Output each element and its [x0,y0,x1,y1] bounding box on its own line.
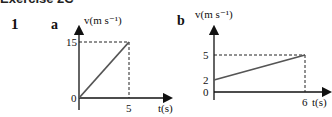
ytick-2: 2 [203,74,209,86]
velocity-time-graphs: v(m s⁻¹) 15 0 5 t(s) v(m s⁻¹) 5 2 0 6 t(… [0,0,332,117]
ytick-15: 15 [66,36,78,48]
y-axis-label-b: v(m s⁻¹) [195,8,233,21]
velocity-line-a [79,42,129,98]
x-axis-label-a: t(s) [158,102,173,115]
x-axis-label-b: t(s) [312,96,327,109]
y-axis-label-a: v(m s⁻¹) [84,14,122,27]
ytick-5: 5 [203,49,209,61]
xtick-6: 6 [302,96,308,108]
velocity-line-b [214,55,305,80]
graph-b: v(m s⁻¹) 5 2 0 6 t(s) [195,8,327,109]
ytick-0-b: 0 [203,86,209,98]
ytick-0-a: 0 [71,92,77,104]
xtick-5: 5 [126,102,132,114]
graph-a: v(m s⁻¹) 15 0 5 t(s) [66,14,173,115]
